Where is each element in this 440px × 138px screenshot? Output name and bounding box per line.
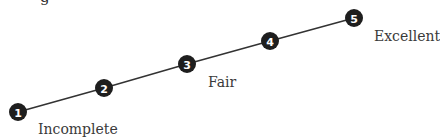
label-fair: Fair (208, 74, 236, 90)
scale-node-3: 3 (178, 55, 196, 73)
svg-text:3: 3 (183, 59, 191, 72)
scale-node-4: 4 (261, 32, 279, 50)
label-excellent: Excellent (374, 28, 440, 44)
svg-text:5: 5 (350, 13, 358, 26)
svg-text:2: 2 (100, 83, 108, 96)
scale-node-5: 5 (345, 9, 363, 27)
cut-off-heading-fragment: g (40, 0, 50, 5)
scale-line-graphic: 1 2 3 4 5 (0, 0, 440, 138)
scale-node-2: 2 (95, 79, 113, 97)
label-incomplete: Incomplete (38, 121, 118, 137)
rating-scale-diagram: g 1 2 3 4 5 Incomplete Fair Excellent (0, 0, 440, 138)
svg-text:4: 4 (266, 36, 274, 49)
scale-node-1: 1 (9, 103, 27, 121)
svg-text:1: 1 (14, 107, 22, 120)
